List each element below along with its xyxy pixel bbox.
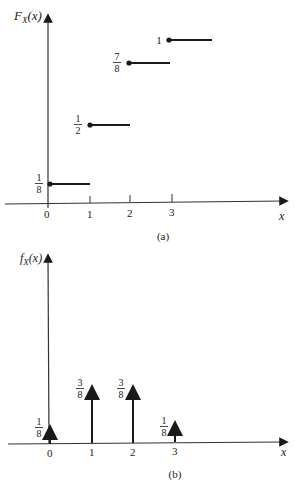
cdf-y-label: FX(x) bbox=[13, 8, 42, 25]
pmf-y-axis bbox=[48, 258, 49, 444]
cdf-step-2: 1 2 bbox=[74, 113, 130, 136]
cdf-x-axis bbox=[5, 201, 284, 204]
cdf-tick-label-1: 1 bbox=[87, 208, 93, 220]
pmf-impulse-1: 3 8 bbox=[76, 377, 92, 443]
svg-text:3: 3 bbox=[78, 377, 83, 388]
pmf-tick-label-3: 3 bbox=[172, 445, 178, 457]
cdf-plot: FX(x) x 0 1 2 3 1 8 1 2 bbox=[5, 8, 285, 243]
pmf-y-label: fX(x) bbox=[20, 251, 42, 267]
svg-text:1: 1 bbox=[76, 113, 81, 124]
svg-text:8: 8 bbox=[37, 184, 42, 195]
svg-text:8: 8 bbox=[78, 389, 83, 400]
cdf-x-label: x bbox=[278, 209, 285, 223]
svg-text:1: 1 bbox=[37, 172, 42, 183]
pmf-impulse-0: 1 8 bbox=[35, 416, 50, 444]
svg-text:3: 3 bbox=[119, 377, 124, 388]
pmf-tick-label-1: 1 bbox=[89, 446, 95, 458]
pmf-plot: fX(x) x 1 8 3 8 3 8 1 8 bbox=[8, 251, 287, 481]
svg-text:8: 8 bbox=[37, 428, 42, 439]
svg-text:8: 8 bbox=[115, 63, 120, 74]
cdf-caption: (a) bbox=[157, 230, 170, 243]
pmf-caption: (b) bbox=[169, 468, 182, 481]
pmf-impulse-3: 1 8 bbox=[160, 415, 175, 442]
svg-text:8: 8 bbox=[162, 427, 167, 438]
figure-canvas: FX(x) x 0 1 2 3 1 8 1 2 bbox=[0, 0, 300, 488]
svg-text:2: 2 bbox=[76, 125, 81, 136]
svg-text:7: 7 bbox=[115, 51, 120, 62]
cdf-tick-label-3: 3 bbox=[169, 206, 175, 218]
cdf-tick-label-2: 2 bbox=[127, 207, 133, 219]
pmf-tick-label-0: 0 bbox=[47, 447, 53, 459]
svg-text:1: 1 bbox=[156, 34, 162, 46]
cdf-tick-label-0: 0 bbox=[44, 208, 50, 220]
svg-text:1: 1 bbox=[37, 416, 42, 427]
pmf-impulse-2: 3 8 bbox=[117, 377, 133, 443]
pmf-x-label: x bbox=[280, 445, 287, 459]
cdf-step-1: 1 8 bbox=[35, 172, 90, 195]
pmf-tick-label-2: 2 bbox=[130, 446, 136, 458]
svg-text:8: 8 bbox=[119, 389, 124, 400]
cdf-step-4: 1 bbox=[156, 34, 212, 46]
svg-text:1: 1 bbox=[162, 415, 167, 426]
cdf-step-3: 7 8 bbox=[113, 51, 170, 74]
